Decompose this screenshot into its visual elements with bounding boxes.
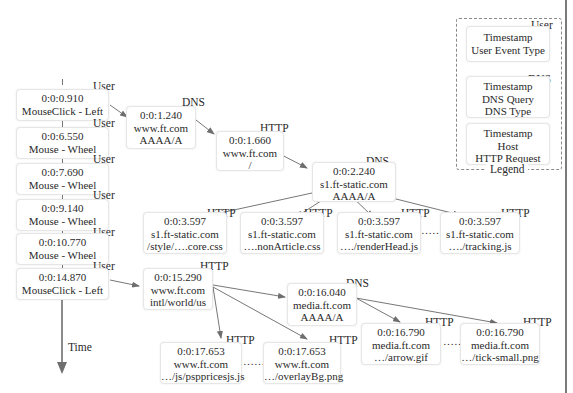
host: s1.ft-static.com <box>441 228 519 241</box>
host: media.ft.com <box>461 339 539 352</box>
timestamp: 0:0:17.653 <box>161 345 241 358</box>
host: media.ft.com <box>362 339 440 352</box>
timestamp: 0:0:10.770 <box>17 236 108 249</box>
ellipsis: …… <box>243 355 265 367</box>
host: www.ft.com <box>217 147 283 160</box>
legend-dns-node: Timestamp DNS Query DNS Type <box>466 76 550 118</box>
timeline-tick <box>62 79 63 85</box>
timestamp: 0:0:3.597 <box>144 215 226 228</box>
host: www.ft.com <box>144 284 212 297</box>
legend-line: DNS Type <box>467 105 549 118</box>
dns-type: AAAA/A <box>127 134 195 147</box>
http-request: …./tracking.js <box>441 240 519 253</box>
legend-line: Host <box>467 140 549 153</box>
http-request-node: 0:0:17.653 www.ft.com …/overlayBg.png <box>263 342 341 384</box>
legend-line: User Event Type <box>467 44 549 57</box>
http-request-node: 0:0:3.597 s1.ft-static.com ….nonArticle.… <box>240 212 324 254</box>
legend-line: Timestamp <box>467 31 549 44</box>
http-request-node: 0:0:3.597 s1.ft-static.com /style/….core… <box>143 212 227 254</box>
http-request: …./renderHead.js <box>338 240 420 253</box>
dns-type: AAAA/A <box>288 311 356 324</box>
timestamp: 0:0:16.790 <box>362 326 440 339</box>
http-request: /style/….core.css <box>144 240 226 253</box>
legend-line: Timestamp <box>467 127 549 140</box>
legend-user-node: Timestamp User Event Type <box>466 26 550 62</box>
dns-type: AAAA/A <box>313 190 395 203</box>
http-request-node: 0:0:3.597 s1.ft-static.com …./renderHead… <box>337 212 421 254</box>
http-request: intl/world/us <box>144 296 212 309</box>
http-request-node: 0:0:1.660 www.ft.com / <box>216 131 284 171</box>
timestamp: 0:0:3.597 <box>338 215 420 228</box>
timestamp: 0:0:14.870 <box>17 271 108 284</box>
legend-line: DNS Query <box>467 93 549 106</box>
http-request: …/overlayBg.png <box>264 370 340 383</box>
http-request-node: 0:0:3.597 s1.ft-static.com …./tracking.j… <box>440 212 520 254</box>
dns-query: media.ft.com <box>288 299 356 312</box>
timestamp: 0:0:17.653 <box>264 345 340 358</box>
timestamp: 0:0:2.240 <box>313 165 395 178</box>
http-request-node: 0:0:15.290 www.ft.com intl/world/us <box>143 268 213 310</box>
http-request: …/tick-small.png <box>461 351 539 364</box>
http-request: / <box>217 159 283 172</box>
timestamp: 0:0:16.790 <box>461 326 539 339</box>
dns-query: s1.ft-static.com <box>313 178 395 191</box>
timestamp: 0:0:7.690 <box>17 166 108 179</box>
timestamp: 0:0:1.240 <box>127 109 195 122</box>
host: s1.ft-static.com <box>241 228 323 241</box>
event-type: MouseClick - Left <box>17 105 108 118</box>
timestamp: 0:0:6.550 <box>17 130 108 143</box>
timestamp: 0:0:1.660 <box>217 134 283 147</box>
dns-query-node: 0:0:1.240 www.ft.com AAAA/A <box>126 106 196 149</box>
timestamp: 0:0:3.597 <box>441 215 519 228</box>
http-request: …/js/psppricesjs.js <box>161 370 241 383</box>
legend-line: Timestamp <box>467 80 549 93</box>
dns-query-node: 0:0:16.040 media.ft.com AAAA/A <box>287 283 357 326</box>
http-request: …/arrow.gif <box>362 351 440 364</box>
timestamp: 0:0:9.140 <box>17 202 108 215</box>
http-request-node: 0:0:17.653 www.ft.com …/js/psppricesjs.j… <box>160 342 242 384</box>
host: www.ft.com <box>161 358 241 371</box>
frame-border <box>565 0 567 393</box>
timestamp: 0:0:0.910 <box>17 92 108 105</box>
timestamp: 0:0:15.290 <box>144 271 212 284</box>
host: www.ft.com <box>264 358 340 371</box>
dns-query-node: 0:0:2.240 s1.ft-static.com AAAA/A <box>312 162 396 202</box>
legend-title: Legend <box>486 163 528 175</box>
legend-http-node: Timestamp Host HTTP Request <box>466 123 550 165</box>
host: s1.ft-static.com <box>338 228 420 241</box>
timestamp: 0:0:16.040 <box>288 286 356 299</box>
user-event-node: 0:0:14.870 MouseClick - Left <box>16 268 109 300</box>
http-request-node: 0:0:16.790 media.ft.com …/arrow.gif <box>361 323 441 365</box>
event-type: MouseClick - Left <box>17 284 108 297</box>
http-request: ….nonArticle.css <box>241 240 323 253</box>
timestamp: 0:0:3.597 <box>241 215 323 228</box>
timeline-diagram: User 0:0:0.910 MouseClick - Left User 0:… <box>0 0 573 393</box>
host: s1.ft-static.com <box>144 228 226 241</box>
dns-query: www.ft.com <box>127 122 195 135</box>
time-axis-label: Time <box>68 341 92 353</box>
http-request-node: 0:0:16.790 media.ft.com …/tick-small.png <box>460 323 540 365</box>
